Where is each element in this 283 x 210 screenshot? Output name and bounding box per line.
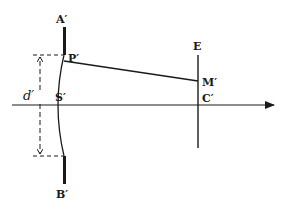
- ray-p-m: [64, 61, 198, 81]
- label-p: P′: [68, 52, 79, 65]
- label-c: C′: [202, 92, 214, 105]
- label-d: d′: [23, 88, 34, 103]
- label-e: E: [193, 40, 201, 53]
- optics-diagram: A′ P′ S′ B′ E M′ C′ d′: [0, 0, 283, 210]
- label-a: A′: [55, 13, 68, 26]
- label-s: S′: [55, 91, 66, 104]
- label-b: B′: [56, 188, 68, 201]
- label-m: M′: [202, 76, 217, 89]
